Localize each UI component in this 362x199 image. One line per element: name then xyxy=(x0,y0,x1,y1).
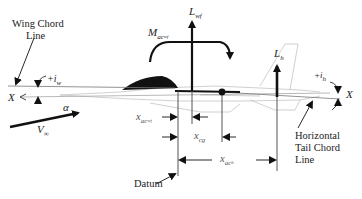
x-axis-line xyxy=(22,93,330,97)
i-h-arrow-bottom xyxy=(332,100,338,110)
wing-chord-pointer xyxy=(16,38,34,84)
i-w-arrow-top xyxy=(38,76,46,86)
wing-chord-label-line1: Wing Chord xyxy=(12,19,64,30)
diagram-canvas xyxy=(0,0,362,199)
htail-pointer xyxy=(298,102,312,128)
v-inf-label: V∞ xyxy=(37,124,49,138)
x-axis-label-left: X xyxy=(8,92,15,103)
x-acwf-label: xacwf xyxy=(136,112,152,125)
x-acwf-subsubscript: wf xyxy=(147,118,152,123)
htail-label-line2: Tail Chord xyxy=(295,143,340,154)
x-cg-subscript: cg xyxy=(199,136,206,144)
i-h-label: +ih xyxy=(314,71,326,83)
lift-wf-subscript: wf xyxy=(195,12,202,20)
x-cg-label: xcg xyxy=(194,131,205,144)
datum-label: Datum xyxy=(134,179,163,190)
wing-chord-label-line2: Line xyxy=(26,31,45,42)
moment-symbol: M xyxy=(148,26,157,38)
x-ach-subsubscript: h xyxy=(231,160,234,165)
alpha-label: α xyxy=(63,102,69,113)
lift-h-label: Lh xyxy=(274,48,284,62)
i-h-arrow-top xyxy=(330,82,338,92)
v-subscript: ∞ xyxy=(44,130,49,138)
wing-ac-bar xyxy=(175,91,240,92)
lift-wf-label: Lwf xyxy=(189,6,202,20)
v-symbol: V xyxy=(37,123,44,135)
moment-arc xyxy=(150,42,230,62)
i-h-subscript: h xyxy=(323,75,327,83)
moment-label: Macwf xyxy=(148,27,169,41)
cg-point xyxy=(219,89,226,96)
i-w-label: +iw xyxy=(47,74,61,87)
x-axis-label-right: X xyxy=(346,89,353,100)
aircraft-force-diagram: Wing Chord Line +iw X X α V∞ Macwf Lwf L… xyxy=(0,0,362,199)
i-w-sign: + xyxy=(47,73,54,84)
i-w-subscript: w xyxy=(57,79,62,87)
lift-h-subscript: h xyxy=(280,54,284,62)
moment-subscript: ac xyxy=(157,33,164,41)
htail-label-line3: Line xyxy=(295,155,314,166)
htail-label-line1: Horizontal xyxy=(295,131,340,142)
moment-subsubscript: wf xyxy=(164,34,169,39)
x-ach-label: xach xyxy=(220,154,234,167)
